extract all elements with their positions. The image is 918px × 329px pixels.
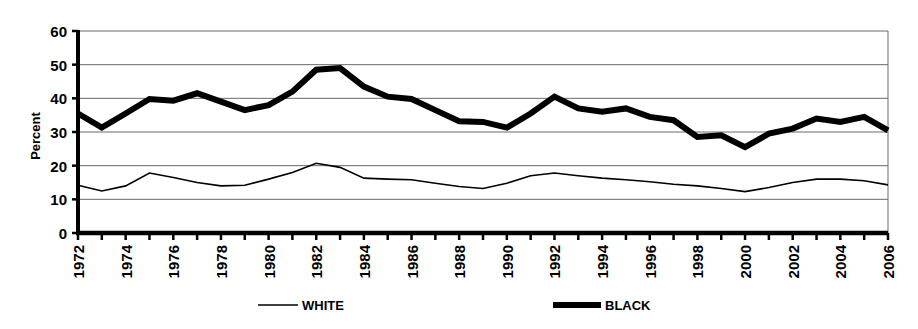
y-tick-label-10: 10 (50, 191, 67, 208)
y-tick-label-40: 40 (50, 90, 67, 107)
y-tick-label-0: 0 (59, 225, 67, 242)
x-tick-label-1972: 1972 (70, 245, 87, 278)
x-tick-label-2002: 2002 (785, 245, 802, 278)
x-tick-label-1976: 1976 (165, 245, 182, 278)
x-tick-label-1982: 1982 (308, 245, 325, 278)
line-chart: 0102030405060 19721974197619781980198219… (0, 0, 918, 329)
x-tick-label-1986: 1986 (404, 245, 421, 278)
x-tick-label-1996: 1996 (642, 245, 659, 278)
chart-background (0, 0, 918, 329)
x-tick-label-1994: 1994 (594, 244, 611, 278)
x-tick-label-1974: 1974 (118, 244, 135, 278)
x-tick-label-1980: 1980 (261, 245, 278, 278)
x-tick-label-1984: 1984 (356, 244, 373, 278)
y-tick-label-20: 20 (50, 158, 67, 175)
x-tick-label-2006: 2006 (880, 245, 897, 278)
y-tick-label-50: 50 (50, 57, 67, 74)
x-tick-label-1978: 1978 (213, 245, 230, 278)
x-tick-label-1998: 1998 (689, 245, 706, 278)
legend-label-white: WHITE (302, 298, 344, 313)
x-tick-label-2004: 2004 (832, 244, 849, 278)
y-tick-label-60: 60 (50, 23, 67, 40)
y-axis-title: Percent (28, 111, 43, 159)
y-tick-label-30: 30 (50, 124, 67, 141)
legend-label-black: BLACK (605, 298, 651, 313)
x-tick-label-2000: 2000 (737, 245, 754, 278)
x-tick-label-1990: 1990 (499, 245, 516, 278)
x-tick-label-1988: 1988 (451, 245, 468, 278)
chart-container: 0102030405060 19721974197619781980198219… (0, 0, 918, 329)
x-tick-label-1992: 1992 (546, 245, 563, 278)
